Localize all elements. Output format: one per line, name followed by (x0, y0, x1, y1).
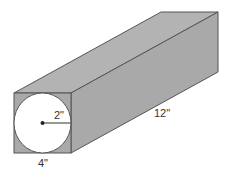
prism-diagram: 2" 12" 4" (0, 0, 231, 177)
width-label: 4" (38, 157, 48, 169)
length-label: 12" (154, 107, 170, 119)
center-point (41, 121, 45, 125)
radius-label: 2" (54, 109, 64, 121)
